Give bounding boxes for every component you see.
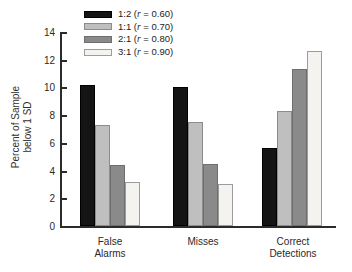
x-category-label-line1: Misses — [158, 236, 248, 248]
y-tick-mark — [62, 32, 67, 34]
bar — [95, 125, 110, 226]
legend-item: 3:1 (r = 0.90) — [84, 46, 173, 59]
y-tick-mark — [62, 87, 67, 89]
bar-chart-figure: Percent of Sample below 1 SD 02468101214… — [0, 0, 352, 272]
x-category-label-line1: Correct — [248, 236, 338, 248]
x-axis-line — [60, 226, 336, 228]
legend-r-symbol: r — [137, 34, 141, 44]
legend-label: 3:1 (r = 0.90) — [118, 47, 173, 57]
legend-r-symbol: r — [137, 47, 141, 57]
x-category-label-line2: Detections — [248, 248, 338, 260]
legend-swatch — [84, 36, 112, 43]
legend-item: 1:2 (r = 0.60) — [84, 8, 173, 21]
bar — [277, 111, 292, 226]
legend: 1:2 (r = 0.60)1:1 (r = 0.70)2:1 (r = 0.8… — [84, 8, 173, 58]
legend-swatch — [84, 49, 112, 56]
y-tick-mark — [62, 143, 67, 145]
x-category-label: CorrectDetections — [248, 236, 338, 260]
bar — [110, 165, 125, 226]
y-axis-title-line1: Percent of Sample — [10, 86, 22, 168]
y-axis-title-line2: below 1 SD — [22, 86, 34, 168]
y-tick-label: 14 — [26, 27, 55, 39]
y-tick-label: 10 — [26, 82, 55, 94]
legend-r-symbol: r — [137, 22, 141, 32]
y-axis-title: Percent of Sample below 1 SD — [10, 86, 34, 168]
x-category-label-line1: False — [65, 236, 155, 248]
legend-swatch — [84, 11, 112, 18]
y-tick-mark — [62, 115, 67, 117]
legend-label: 2:1 (r = 0.80) — [118, 34, 173, 44]
x-category-label: Misses — [158, 236, 248, 248]
y-tick-mark — [62, 60, 67, 62]
y-tick-label: 12 — [26, 55, 55, 67]
bar — [203, 164, 218, 226]
legend-item: 1:1 (r = 0.70) — [84, 21, 173, 34]
bar — [173, 87, 188, 226]
bar — [307, 51, 322, 226]
bar — [218, 184, 233, 226]
bar — [188, 122, 203, 226]
bar — [292, 69, 307, 226]
legend-swatch — [84, 23, 112, 30]
legend-label: 1:2 (r = 0.60) — [118, 9, 173, 19]
y-tick-mark — [62, 171, 67, 173]
y-tick-mark — [62, 226, 67, 228]
y-tick-label: 0 — [26, 221, 55, 233]
x-category-label-line2: Alarms — [65, 248, 155, 260]
y-tick-label: 8 — [26, 110, 55, 122]
x-category-label: FalseAlarms — [65, 236, 155, 260]
legend-label: 1:1 (r = 0.70) — [118, 22, 173, 32]
bar — [125, 182, 140, 226]
y-tick-label: 4 — [26, 166, 55, 178]
legend-r-symbol: r — [137, 9, 141, 19]
y-tick-label: 6 — [26, 138, 55, 150]
y-tick-label: 2 — [26, 193, 55, 205]
bar — [262, 148, 277, 226]
bar — [80, 85, 95, 226]
y-tick-mark — [62, 198, 67, 200]
legend-item: 2:1 (r = 0.80) — [84, 33, 173, 46]
